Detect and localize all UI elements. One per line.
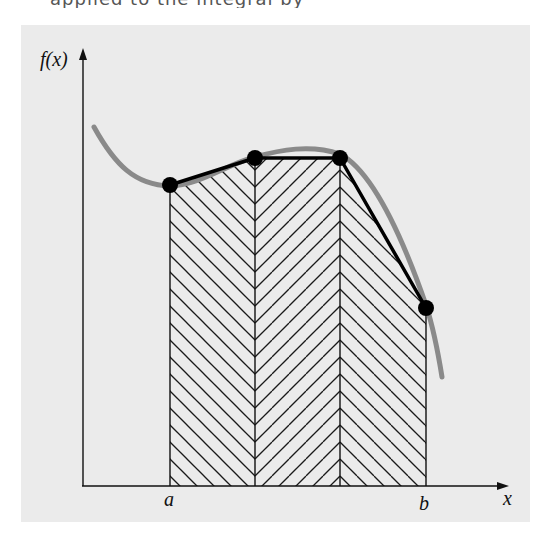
trapezoid-segment-2 [255, 158, 340, 486]
data-point-x1 [247, 150, 263, 166]
interval-start-label: a [164, 488, 174, 510]
x-axis-label: x [502, 487, 512, 509]
data-point-a [162, 177, 178, 193]
y-axis-arrow-icon [79, 48, 87, 60]
trapezoidal-rule-diagram: f(x) x a b [0, 0, 551, 536]
y-axis-label: f(x) [40, 48, 68, 71]
data-point-b [418, 300, 434, 316]
interval-end-label: b [419, 492, 429, 514]
data-point-x2 [332, 150, 348, 166]
trapezoid-segment-1 [170, 158, 255, 486]
